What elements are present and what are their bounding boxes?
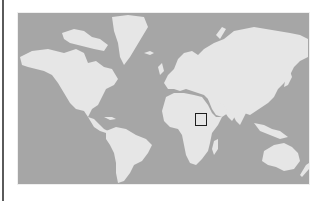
british-isles — [158, 63, 164, 75]
world-map-graphic — [18, 13, 309, 184]
caribbean-islands — [104, 117, 116, 120]
continent-south-america — [106, 127, 152, 183]
continent-greenland — [112, 15, 148, 65]
left-border-line — [2, 0, 4, 201]
world-map[interactable] — [18, 13, 309, 184]
central-america — [88, 117, 108, 133]
location-marker[interactable] — [195, 113, 207, 126]
continent-australia — [262, 143, 300, 171]
iceland — [144, 51, 154, 55]
madagascar — [212, 139, 218, 155]
canadian-arctic-islands — [62, 29, 108, 51]
indian-subcontinent — [232, 105, 248, 125]
southeast-asia-islands — [254, 123, 288, 139]
continent-north-america — [20, 49, 118, 117]
novaya-zemlya — [216, 27, 226, 39]
new-zealand — [300, 163, 309, 177]
